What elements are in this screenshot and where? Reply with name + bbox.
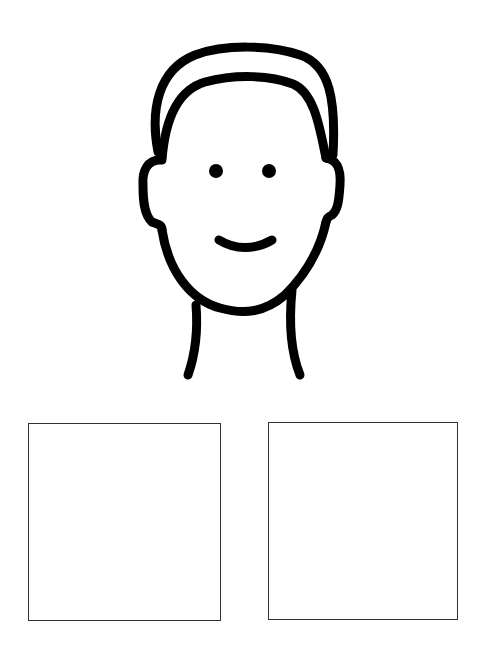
right-eye-icon — [262, 164, 276, 178]
neck-right-outline — [291, 290, 300, 375]
neck-left-outline — [188, 305, 197, 375]
left-ear-outline — [143, 160, 162, 230]
face-illustration — [0, 0, 488, 400]
jaw-outline — [162, 222, 326, 312]
right-ear-outline — [326, 158, 340, 222]
left-answer-box — [28, 423, 221, 621]
hairline-outline — [162, 77, 326, 160]
right-answer-box — [268, 422, 458, 620]
left-eye-icon — [209, 164, 223, 178]
smile-outline — [219, 240, 272, 248]
